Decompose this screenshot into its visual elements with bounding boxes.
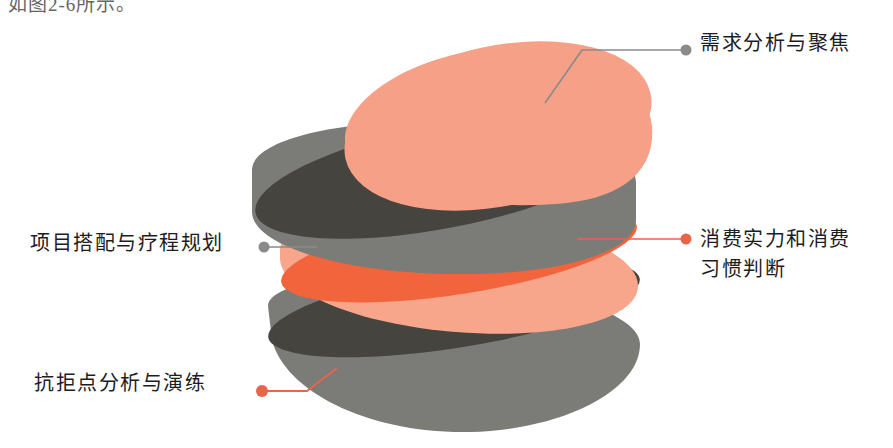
diagram-stage: 如图2-6所示。 [0,0,893,448]
label-objection-handling: 抗拒点分析与演练 [34,368,206,398]
label-consumption-judgement: 消费实力和消费 习惯判断 [700,224,851,284]
leader-top-right-dot [681,45,692,56]
label-treatment-planning: 项目搭配与疗程规划 [30,228,224,258]
leader-bottom-left-dot [256,385,268,397]
leader-mid-left-dot [259,242,270,253]
label-demand-analysis: 需求分析与聚焦 [700,28,851,58]
leader-mid-right-dot [681,234,692,245]
